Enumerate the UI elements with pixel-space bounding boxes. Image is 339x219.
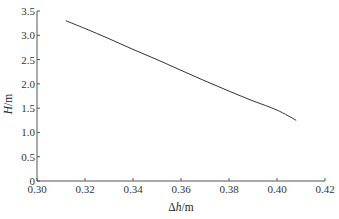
x-tick-label: 0.36	[171, 183, 191, 195]
x-axis-title: Δh/m	[168, 201, 193, 213]
x-tick-label: 0.32	[75, 183, 94, 195]
series-line-H	[66, 21, 296, 121]
x-tick-label: 0.30	[27, 183, 47, 195]
data-series	[66, 21, 296, 121]
y-tick-label: 1.0	[21, 126, 35, 138]
x-tick-label: 0.40	[267, 183, 287, 195]
x-tick-label: 0.42	[315, 183, 334, 195]
x-tick-label: 0.34	[123, 183, 143, 195]
line-chart: 00.51.01.52.02.53.03.5 0.300.320.340.360…	[0, 0, 339, 219]
y-tick-label: 1.5	[21, 102, 35, 114]
x-tick-label: 0.38	[219, 183, 239, 195]
y-axis-unit: /m	[2, 94, 14, 106]
x-axis: 0.300.320.340.360.380.400.42	[27, 178, 334, 195]
x-axis-unit: /m	[182, 201, 194, 213]
x-axis-delta: Δ	[168, 201, 175, 213]
y-axis: 00.51.01.52.02.53.03.5	[21, 5, 40, 187]
y-tick-label: 3.0	[21, 29, 35, 41]
y-axis-title: H/m	[2, 94, 14, 116]
y-tick-label: 0.5	[21, 151, 35, 163]
y-tick-label: 3.5	[21, 5, 35, 17]
y-tick-label: 2.5	[21, 54, 35, 66]
y-tick-label: 2.0	[21, 78, 35, 90]
